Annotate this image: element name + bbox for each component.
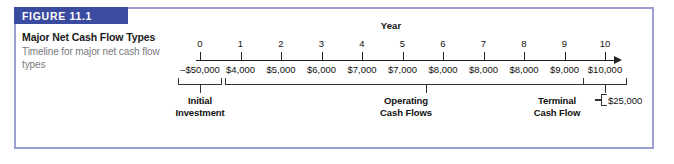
terminal-cash-flow-callout: $25,000 xyxy=(595,94,642,106)
group-label-terminal-cash-flow-line1: Terminal xyxy=(512,95,602,107)
bracket-initial-investment-stem xyxy=(200,85,201,93)
group-label-terminal-cash-flow-line2: Cash Flow xyxy=(512,107,602,119)
cash-flow-value: $10,000 xyxy=(580,64,630,75)
year-label: 8 xyxy=(507,38,541,49)
bracket-terminal-cash-flow xyxy=(583,78,627,85)
group-label-operating-cash-flows: OperatingCash Flows xyxy=(361,95,451,118)
year-label: 1 xyxy=(224,38,258,49)
timeline-tick xyxy=(443,52,444,61)
bracket-operating-cash-flows xyxy=(225,78,627,85)
figure-number-label: FIGURE 11.1 xyxy=(22,10,92,22)
year-label: 9 xyxy=(548,38,582,49)
timeline-axis-arrow-icon xyxy=(614,56,622,64)
timeline-chart: Year 012345678910 –$50,000$4,000$5,000$6… xyxy=(186,20,638,144)
figure-container: FIGURE 11.1 Major Net Cash Flow Types Ti… xyxy=(0,0,674,164)
bracket-operating-cash-flows-stem xyxy=(426,85,427,93)
figure-subtitle: Timeline for major net cash flow types xyxy=(22,46,170,71)
figure-title: Major Net Cash Flow Types xyxy=(22,31,170,44)
figure-banner: FIGURE 11.1 xyxy=(14,7,128,24)
axis-heading-year: Year xyxy=(186,20,596,31)
group-label-initial-investment: InitialInvestment xyxy=(155,95,245,118)
timeline-tick xyxy=(241,52,242,61)
year-label: 4 xyxy=(345,38,379,49)
timeline-tick xyxy=(322,52,323,61)
timeline-axis-line xyxy=(196,60,616,61)
year-label: 0 xyxy=(183,38,217,49)
year-label: 6 xyxy=(426,38,460,49)
timeline-tick xyxy=(484,52,485,61)
group-label-operating-cash-flows-line1: Operating xyxy=(361,95,451,107)
bracket-initial-investment xyxy=(178,78,222,85)
timeline-tick xyxy=(281,52,282,61)
figure-caption: Major Net Cash Flow Types Timeline for m… xyxy=(22,31,170,71)
timeline-tick xyxy=(605,52,606,61)
year-label: 7 xyxy=(467,38,501,49)
timeline-tick xyxy=(200,52,201,61)
group-label-initial-investment-line2: Investment xyxy=(155,107,245,119)
timeline-tick xyxy=(524,52,525,61)
timeline-tick xyxy=(362,52,363,61)
year-label: 2 xyxy=(264,38,298,49)
group-label-terminal-cash-flow: TerminalCash Flow xyxy=(512,95,602,118)
timeline-tick xyxy=(565,52,566,61)
year-label: 10 xyxy=(588,38,622,49)
callout-bracket-icon xyxy=(601,94,607,106)
year-label: 3 xyxy=(305,38,339,49)
year-label: 5 xyxy=(386,38,420,49)
group-label-operating-cash-flows-line2: Cash Flows xyxy=(361,107,451,119)
bracket-terminal-cash-flow-stem xyxy=(605,85,606,93)
timeline-tick xyxy=(403,52,404,61)
terminal-value-label: $25,000 xyxy=(608,95,642,106)
group-label-initial-investment-line1: Initial xyxy=(155,95,245,107)
